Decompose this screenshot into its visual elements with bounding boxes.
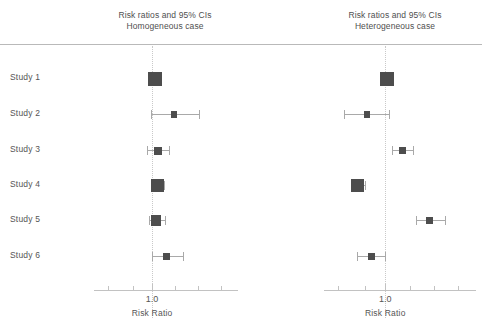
point-estimate-heterogeneous-6 [368,253,375,260]
point-estimate-homogeneous-2 [171,111,177,117]
point-estimate-heterogeneous-1 [380,72,394,86]
ci-cap-homogeneous-6-low [152,252,153,261]
x-axis-tick-heterogeneous-5 [458,286,459,290]
x-axis-value-label-heterogeneous: 1.0 [355,294,415,304]
ci-cap-homogeneous-2-low [151,110,152,119]
study-label-5: Study 5 [10,214,40,224]
point-estimate-homogeneous-5 [151,215,161,225]
ci-cap-heterogeneous-2-low [344,110,345,119]
ci-cap-heterogeneous-6-high [385,252,386,261]
reference-line-heterogeneous [385,46,387,318]
x-axis-caption-heterogeneous: Risk Ratio [335,308,435,318]
ci-cap-homogeneous-3-high [169,146,170,155]
header-divider [0,44,482,45]
forest-plot-figure: Study 1Study 2Study 3Study 4Study 5Study… [0,0,482,332]
panel-title-homogeneous: Risk ratios and 95% CIsHomogeneous case [95,10,235,32]
x-axis-tick-homogeneous-0 [108,286,109,290]
ci-cap-homogeneous-2-high [199,110,200,119]
x-axis-tick-homogeneous-2 [152,284,153,290]
panel-title-main-heterogeneous: Risk ratios and 95% CIs [325,10,465,21]
point-estimate-heterogeneous-2 [364,111,370,117]
x-axis-tick-homogeneous-1 [133,286,134,290]
x-axis-line-heterogeneous [324,290,476,291]
x-axis-tick-homogeneous-3 [175,286,176,290]
point-estimate-heterogeneous-4 [351,179,365,193]
study-label-2: Study 2 [10,108,40,118]
point-estimate-heterogeneous-5 [426,217,433,224]
ci-cap-heterogeneous-6-low [357,252,358,261]
study-label-4: Study 4 [10,179,40,189]
ci-cap-heterogeneous-3-high [413,146,414,155]
ci-cap-heterogeneous-5-high [445,216,446,225]
x-axis-tick-homogeneous-4 [198,286,199,290]
ci-cap-homogeneous-5-high [165,216,166,225]
point-estimate-heterogeneous-3 [399,147,406,154]
x-axis-tick-heterogeneous-2 [385,284,386,290]
point-estimate-homogeneous-1 [148,72,162,86]
ci-cap-heterogeneous-4-high [365,181,366,190]
point-estimate-homogeneous-4 [151,179,164,192]
x-axis-caption-homogeneous: Risk Ratio [102,308,202,318]
x-axis-line-homogeneous [94,290,238,291]
ci-cap-homogeneous-6-high [183,252,184,261]
x-axis-tick-heterogeneous-0 [338,286,339,290]
ci-cap-heterogeneous-5-low [416,216,417,225]
x-axis-tick-homogeneous-5 [221,286,222,290]
study-label-1: Study 1 [10,72,40,82]
panel-title-sub-homogeneous: Homogeneous case [95,21,235,32]
panel-title-sub-heterogeneous: Heterogeneous case [325,21,465,32]
x-axis-tick-heterogeneous-3 [410,286,411,290]
x-axis-tick-heterogeneous-1 [365,286,366,290]
panel-title-main-homogeneous: Risk ratios and 95% CIs [95,10,235,21]
x-axis-tick-heterogeneous-4 [434,286,435,290]
point-estimate-homogeneous-3 [154,147,162,155]
study-label-6: Study 6 [10,250,40,260]
ci-cap-heterogeneous-2-high [389,110,390,119]
x-axis-value-label-homogeneous: 1.0 [122,294,182,304]
ci-cap-homogeneous-3-low [147,146,148,155]
ci-cap-heterogeneous-3-low [392,146,393,155]
study-label-3: Study 3 [10,144,40,154]
panel-title-heterogeneous: Risk ratios and 95% CIsHeterogeneous cas… [325,10,465,32]
point-estimate-homogeneous-6 [163,253,170,260]
